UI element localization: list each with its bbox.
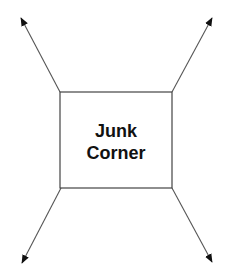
arrow-bottom-right-icon bbox=[172, 188, 212, 262]
box-label-line-1: Junk bbox=[95, 121, 138, 141]
arrow-top-left-icon bbox=[21, 18, 60, 92]
arrow-bottom-left-icon bbox=[22, 188, 61, 263]
box-label-line-2: Corner bbox=[86, 143, 145, 163]
arrow-top-right-icon bbox=[172, 18, 212, 92]
junk-corner-diagram: Junk Corner bbox=[0, 0, 227, 274]
